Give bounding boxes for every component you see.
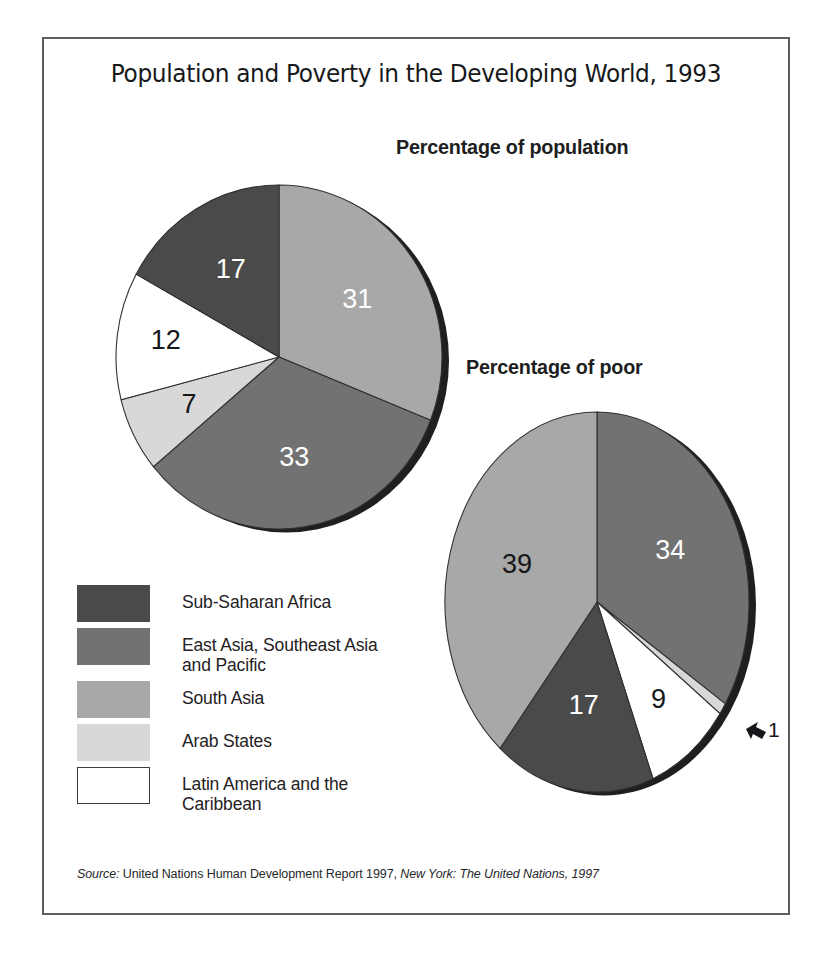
callout-label: 1: [768, 718, 780, 741]
slice-value-label: 12: [151, 325, 181, 355]
slice-value-label: 39: [502, 549, 532, 579]
slice-value-label: 7: [181, 389, 196, 419]
slice-value-label: 17: [569, 690, 599, 720]
source-note: Source: United Nations Human Development…: [77, 867, 599, 881]
source-publisher: New York: The United Nations, 1997: [400, 867, 599, 881]
legend: Sub-Saharan Africa East Asia, Southeast …: [77, 585, 378, 820]
legend-item[interactable]: Arab States: [77, 724, 378, 761]
pie-chart-poor: 34191739: [445, 412, 758, 796]
legend-swatch: [77, 681, 150, 718]
legend-label: East Asia, Southeast Asia and Pacific: [182, 628, 378, 675]
legend-item[interactable]: Sub-Saharan Africa: [77, 585, 378, 622]
legend-label: Latin America and the Caribbean: [182, 767, 348, 814]
pie-chart-population: 313371217: [116, 185, 449, 533]
legend-label: Sub-Saharan Africa: [182, 585, 331, 612]
source-text: United Nations Human Development Report …: [119, 867, 400, 881]
slice-value-label: 34: [655, 535, 685, 565]
legend-item[interactable]: Latin America and the Caribbean: [77, 767, 378, 814]
legend-item[interactable]: East Asia, Southeast Asia and Pacific: [77, 628, 378, 675]
slice-value-label: 33: [279, 442, 309, 472]
legend-label: Arab States: [182, 724, 272, 751]
slice-value-label: 9: [651, 684, 666, 714]
figure-frame: Population and Poverty in the Developing…: [42, 37, 790, 915]
legend-swatch: [77, 628, 150, 665]
legend-swatch: [77, 767, 150, 804]
source-key: Source:: [77, 867, 119, 881]
legend-item[interactable]: South Asia: [77, 681, 378, 718]
slice-value-label: 17: [216, 254, 246, 284]
slice-value-label: 31: [342, 284, 372, 314]
legend-swatch: [77, 585, 150, 622]
legend-swatch: [77, 724, 150, 761]
legend-label: South Asia: [182, 681, 264, 708]
